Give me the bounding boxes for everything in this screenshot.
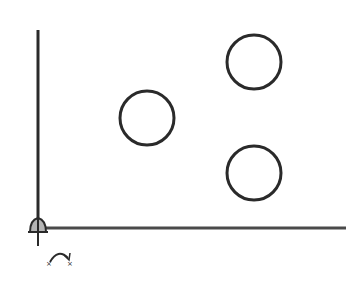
- svg-text:×: ×: [46, 260, 52, 268]
- origin-pin-icon[interactable]: [28, 218, 48, 246]
- rotate-arrow-icon[interactable]: × ×: [46, 253, 73, 268]
- circle-top-right[interactable]: [227, 35, 281, 89]
- svg-text:×: ×: [67, 260, 73, 268]
- circle-bottom-right[interactable]: [227, 146, 281, 200]
- circle-left[interactable]: [120, 91, 174, 145]
- diagram-canvas: × ×: [0, 0, 354, 281]
